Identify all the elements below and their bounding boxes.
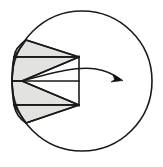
geometry-diagram-svg: [0, 0, 163, 167]
figure-root: [0, 0, 163, 167]
curved-arrow-head: [111, 75, 123, 83]
